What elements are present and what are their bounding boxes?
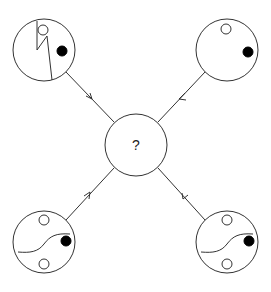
- center-question-label: ?: [132, 137, 140, 153]
- panel-bottom-left: [13, 211, 75, 273]
- filled-dot: [244, 236, 254, 246]
- panel-top-right: [196, 19, 258, 81]
- open-dot: [222, 259, 232, 269]
- open-dot: [39, 215, 49, 225]
- open-dot: [38, 25, 48, 35]
- connector-top-left: [66, 72, 114, 122]
- filled-dot: [243, 47, 253, 57]
- panel-bottom-right: [196, 211, 258, 273]
- open-dot: [222, 215, 232, 225]
- filled-dot: [61, 236, 71, 246]
- diagram-svg: ?: [0, 0, 271, 292]
- connector-bottom-right: [158, 168, 205, 220]
- diagram-canvas: ?: [0, 0, 271, 292]
- filled-dot: [57, 46, 67, 56]
- open-dot: [221, 24, 231, 34]
- panel-top-left: [13, 19, 75, 81]
- open-dot: [39, 259, 49, 269]
- zigzag-line: [37, 21, 52, 80]
